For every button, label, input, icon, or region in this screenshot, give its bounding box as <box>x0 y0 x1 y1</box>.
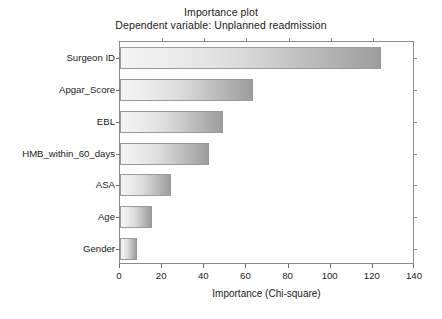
y-axis-label: Surgeon ID <box>3 51 115 62</box>
y-axis-label: ASA <box>3 179 115 190</box>
x-tick-mark-top <box>204 38 205 42</box>
x-tick-mark-top <box>162 38 163 42</box>
bar-fill <box>120 206 152 228</box>
x-tick-mark <box>330 264 331 268</box>
x-tick-mark <box>119 264 120 268</box>
y-axis-label: Apgar_Score <box>3 83 115 94</box>
plot-area <box>120 42 413 263</box>
x-tick-mark <box>203 264 204 268</box>
plot-frame <box>119 41 414 264</box>
x-tick-mark <box>161 264 162 268</box>
bar-fill <box>120 111 223 133</box>
importance-plot-chart: Importance plot Dependent variable: Unpl… <box>0 0 442 319</box>
bar-age[interactable] <box>120 206 415 228</box>
bar-surgeon-id[interactable] <box>120 47 415 69</box>
x-axis-title: Importance (Chi-square) <box>119 288 414 299</box>
x-tick-mark <box>288 264 289 268</box>
y-tick-mark <box>116 122 120 123</box>
y-axis-labels: Surgeon IDApgar_ScoreEBLHMB_within_60_da… <box>0 41 115 264</box>
y-axis-label: EBL <box>3 115 115 126</box>
x-tick-label: 20 <box>156 270 167 281</box>
y-tick-mark-right <box>413 154 417 155</box>
y-tick-mark <box>116 185 120 186</box>
bar-fill <box>120 143 209 165</box>
y-axis-label: Age <box>3 211 115 222</box>
y-tick-mark <box>116 217 120 218</box>
bar-ebl[interactable] <box>120 111 415 133</box>
x-tick-mark-top <box>289 38 290 42</box>
x-tick-label: 80 <box>282 270 293 281</box>
y-tick-mark <box>116 58 120 59</box>
x-tick-mark <box>413 264 414 268</box>
y-axis-label: HMB_within_60_days <box>3 147 115 158</box>
x-tick-mark-top <box>246 38 247 42</box>
y-tick-mark <box>116 249 120 250</box>
chart-title-block: Importance plot Dependent variable: Unpl… <box>0 6 442 33</box>
y-tick-mark-right <box>413 217 417 218</box>
bar-gender[interactable] <box>120 238 415 260</box>
x-tick-mark <box>245 264 246 268</box>
x-tick-label: 140 <box>406 270 422 281</box>
bar-fill <box>120 174 171 196</box>
x-tick-label: 60 <box>240 270 251 281</box>
bar-asa[interactable] <box>120 174 415 196</box>
page-title: Importance plot <box>0 6 442 19</box>
y-tick-mark-right <box>413 249 417 250</box>
x-tick-mark-top <box>373 38 374 42</box>
x-tick-mark <box>372 264 373 268</box>
bar-fill <box>120 47 381 69</box>
y-tick-mark-right <box>413 90 417 91</box>
bar-fill <box>120 238 137 260</box>
bar-hmb-within-60-days[interactable] <box>120 143 415 165</box>
y-axis-label: Gender <box>3 243 115 254</box>
x-tick-label: 120 <box>364 270 380 281</box>
y-tick-mark <box>116 154 120 155</box>
bar-fill <box>120 79 253 101</box>
bar-apgar-score[interactable] <box>120 79 415 101</box>
x-tick-mark-top <box>331 38 332 42</box>
x-tick-label: 100 <box>322 270 338 281</box>
x-tick-label: 40 <box>198 270 209 281</box>
y-tick-mark <box>116 90 120 91</box>
chart-subtitle: Dependent variable: Unplanned readmissio… <box>0 19 442 32</box>
y-tick-mark-right <box>413 58 417 59</box>
y-tick-mark-right <box>413 122 417 123</box>
x-tick-label: 0 <box>116 270 121 281</box>
y-tick-mark-right <box>413 185 417 186</box>
